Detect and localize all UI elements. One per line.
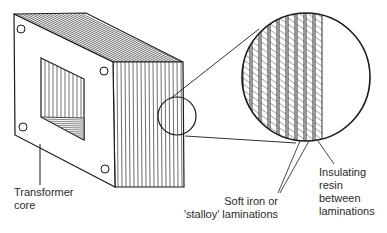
label-line: Transformer xyxy=(14,186,74,199)
magnify-connector-bottom xyxy=(185,136,296,143)
label-line: core xyxy=(14,199,74,212)
label-soft-iron-laminations: Soft iron or 'stalloy' laminations xyxy=(156,195,278,221)
label-line: Insulating xyxy=(319,166,375,179)
label-line: 'stalloy' laminations xyxy=(156,208,278,221)
core-side-face xyxy=(113,62,184,187)
magnified-laminations xyxy=(242,5,370,155)
label-line: laminations xyxy=(319,205,375,218)
label-line: resin xyxy=(319,179,375,192)
label-transformer-core: Transformer core xyxy=(14,186,74,212)
label-line: between xyxy=(319,192,375,205)
label-insulating-resin: Insulating resin between laminations xyxy=(319,166,375,218)
label-line: Soft iron or xyxy=(156,195,278,208)
